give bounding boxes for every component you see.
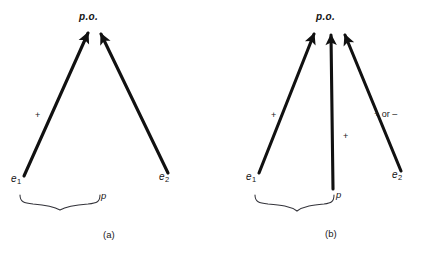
arrow-e1-to-po-b	[259, 34, 314, 173]
panel-b-sign-right: + or –	[374, 110, 397, 119]
panel-b-node-e1-main: e	[246, 171, 252, 182]
panel-b-target-label: p.o.	[316, 12, 335, 22]
panel-b-node-e1: e1	[246, 172, 256, 184]
panel-a-target-label: p.o.	[79, 12, 98, 22]
panel-a-node-e2: e2	[159, 172, 169, 184]
arrow-e2-to-po-a	[101, 34, 168, 173]
panel-b-node-e2-main: e	[392, 169, 398, 180]
panel-a-brace-label: p	[101, 191, 106, 201]
panel-b-brace-label: p	[336, 190, 341, 200]
panel-b-node-e1-sub: 1	[252, 175, 256, 184]
brace-a	[20, 195, 100, 210]
panel-b-node-e2: e2	[392, 170, 402, 182]
panel-a-caption: (a)	[103, 230, 115, 240]
arrow-e2-to-po-b	[345, 35, 401, 171]
figure-drawing	[0, 0, 442, 253]
panel-b-sign-left: +	[271, 111, 276, 120]
panel-b-node-e2-sub: 2	[398, 173, 402, 182]
panel-a-node-e1-sub: 1	[17, 177, 21, 186]
arrow-e1-to-po-a	[24, 33, 88, 176]
arrow-p-to-po-b	[331, 35, 333, 189]
panel-a-node-e2-main: e	[159, 171, 165, 182]
panel-b-sign-middle: +	[343, 132, 348, 141]
panel-a-node-e1: e1	[11, 174, 21, 186]
panel-a-arrows	[24, 33, 168, 176]
panel-a-node-e1-main: e	[11, 173, 17, 184]
panel-a-node-e2-sub: 2	[165, 175, 169, 184]
figure-container: p.o. e1 e2 + p (a) p.o. e1 e2 + + + or –…	[0, 0, 442, 253]
brace-b	[255, 195, 334, 211]
panel-a-sign-left: +	[35, 111, 40, 120]
panel-b-caption: (b)	[325, 229, 337, 239]
